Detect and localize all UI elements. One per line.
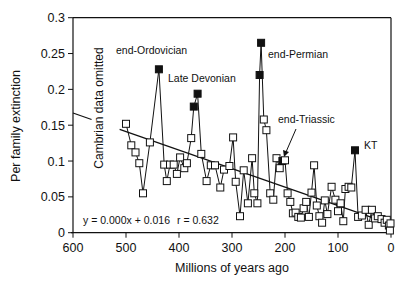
data-point-marker [173,170,180,177]
y-tick-label: 0.25 [41,47,65,61]
data-point-marker [170,161,177,168]
data-point-marker [287,198,294,205]
data-point-marker [263,127,270,134]
y-tick-label: 0.3 [48,11,65,25]
data-point-marker [198,150,205,157]
data-point-marker [217,184,224,191]
data-point-marker [226,163,233,170]
data-point-marker [237,213,244,220]
y-tick-label: 0.2 [48,83,65,97]
data-point-marker [244,200,251,207]
y-tick-label: 0.05 [41,190,65,204]
data-point-marker [212,162,219,169]
data-point-marker [319,219,326,226]
data-point-marker [305,213,312,220]
data-point-marker [297,214,304,221]
y-axis-title: Per family extinction [9,70,23,182]
label-end-permian: end-Permian [268,48,328,60]
data-point-marker [324,211,331,218]
data-point-marker [321,197,328,204]
extinction-event-marker [190,103,197,110]
y-tick-label: 0.1 [48,155,65,169]
data-point-marker [140,190,147,197]
data-point-marker [183,160,190,167]
regression-r: r = 0.632 [177,214,219,226]
data-point-marker [188,135,195,142]
extinction-chart: 00.050.10.150.20.250.3600500400300200100… [0,0,407,293]
data-point-marker [387,220,394,227]
regression-equation: y = 0.000x + 0.016 [83,214,170,226]
label-kt: KT [364,139,378,151]
data-point-marker [340,218,347,225]
data-point-marker [260,116,267,123]
data-point-marker [232,178,239,185]
x-tick-label: 400 [169,241,190,255]
data-point-marker [146,139,153,146]
x-tick-label: 100 [328,241,349,255]
data-point-marker [136,160,143,167]
regression-segment [73,113,92,119]
x-tick-label: 200 [275,241,296,255]
data-point-marker [163,178,170,185]
data-point-marker [254,200,261,207]
data-point-marker [311,162,318,169]
data-point-marker [270,196,277,203]
extinction-event-marker [258,39,265,46]
y-tick-label: 0.15 [41,119,65,133]
data-point-marker [177,154,184,161]
data-point-marker [276,165,283,172]
extinction-event-marker [155,66,162,73]
data-point-marker [313,202,320,209]
data-point-marker [335,208,342,215]
end-triassic-arrow [286,129,296,152]
extinction-event-marker [194,90,201,97]
data-point-marker [348,184,355,191]
data-point-marker [123,120,130,127]
data-point-marker [240,167,247,174]
cambrian-note: Cambrian data omitted [92,47,106,168]
label-end-triassic: end-Triassic [278,113,335,125]
x-tick-label: 500 [116,241,137,255]
end-triassic-arrowhead [283,150,289,157]
regression-segment [120,129,391,224]
data-point-marker [251,190,258,197]
label-late-devonian: Late Devonian [168,72,236,84]
data-point-marker [284,190,291,197]
data-point-marker [337,200,344,207]
data-point-marker [249,155,256,162]
label-end-ordovician: end-Ordovician [116,44,187,56]
data-point-marker [328,183,335,190]
data-point-marker [230,134,237,141]
data-point-marker [282,157,289,164]
data-point-marker [128,142,135,149]
data-point-marker [132,149,139,156]
y-tick-label: 0 [58,226,65,240]
x-tick-label: 0 [388,241,395,255]
data-point-marker [308,189,315,196]
extinction-event-marker [256,72,263,79]
data-point-marker [303,198,310,205]
x-tick-label: 600 [63,241,84,255]
x-axis-title: Millions of years ago [175,261,289,275]
data-point-marker [386,227,393,234]
extinction-event-marker [352,147,359,154]
data-point-marker [203,178,210,185]
data-point-marker [316,213,323,220]
x-tick-label: 300 [222,241,243,255]
